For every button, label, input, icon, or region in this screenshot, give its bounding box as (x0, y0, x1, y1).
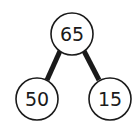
diagram-canvas: 65 50 15 (0, 0, 135, 124)
node-whole: 65 (51, 13, 93, 55)
node-part-left: 50 (16, 78, 58, 120)
edge-whole-to-left (47, 51, 60, 80)
node-part-right: 15 (89, 78, 131, 120)
edge-whole-to-right (84, 51, 99, 80)
node-whole-label: 65 (60, 23, 84, 45)
node-part-right-label: 15 (98, 88, 122, 110)
number-bond-diagram: 65 50 15 (0, 0, 135, 124)
node-part-left-label: 50 (25, 88, 49, 110)
